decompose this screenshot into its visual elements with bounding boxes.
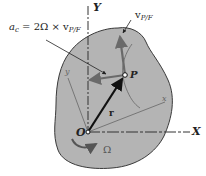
body-x-label: x [162, 95, 167, 103]
axis-Y-label: Y [93, 2, 101, 13]
coriolis-rhs-subscript: P/F [69, 26, 81, 34]
origin-marker [86, 130, 90, 134]
velocity-label: vP/F [135, 10, 153, 22]
rotation-label: Ω [103, 145, 111, 155]
body-y-label: y [65, 68, 70, 76]
coriolis-equation-label: ac = 2Ω × vP/F [9, 22, 81, 34]
origin-O-label: O [76, 127, 86, 138]
position-vector-label: r [109, 109, 114, 118]
coriolis-rhs: = 2Ω × v [22, 21, 69, 32]
rigid-body-shape [55, 28, 173, 169]
coriolis-a-subscript: c [15, 26, 19, 34]
point-p-marker [123, 73, 128, 78]
axis-X-label: X [192, 126, 201, 137]
point-P-label: P [130, 70, 138, 80]
velocity-subscript: P/F [141, 14, 153, 22]
